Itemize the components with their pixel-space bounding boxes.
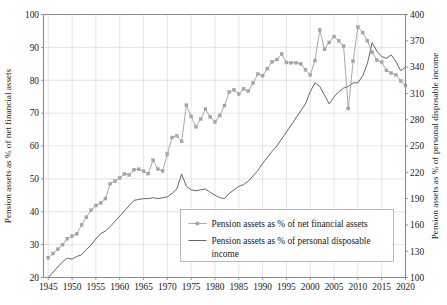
line-chart: 2030405060708090100100130160190220250280… <box>0 0 447 305</box>
y-axis-tick-label: 90 <box>30 43 40 53</box>
data-point-marker <box>352 60 355 63</box>
y-axis-tick-label: 60 <box>30 141 40 151</box>
legend-label-personal-disposable-income-cont: income <box>212 249 239 259</box>
x-axis-tick-label: 1985 <box>229 282 248 292</box>
data-point-marker <box>399 79 402 82</box>
data-point-marker <box>390 72 393 75</box>
data-point-marker <box>137 168 140 171</box>
data-point-marker <box>142 170 145 173</box>
data-point-marker <box>166 153 169 156</box>
data-point-marker <box>123 172 126 175</box>
data-point-marker <box>318 28 321 31</box>
data-point-marker <box>394 73 397 76</box>
y-axis-tick-label: 80 <box>30 76 40 86</box>
y-axis-tick-label: 40 <box>30 207 40 217</box>
data-point-marker <box>52 252 55 255</box>
data-point-marker <box>314 59 317 62</box>
data-point-marker <box>275 58 278 61</box>
data-point-marker <box>375 59 378 62</box>
y2-axis-tick-label: 190 <box>410 194 424 204</box>
x-axis-tick-label: 1950 <box>63 282 82 292</box>
data-point-marker <box>380 61 383 64</box>
data-point-marker <box>213 121 216 124</box>
x-axis-tick-label: 2010 <box>348 282 367 292</box>
data-point-marker <box>256 73 259 76</box>
data-point-marker <box>356 25 359 28</box>
y2-axis-title: Pension assets as % of personal disposab… <box>430 53 440 240</box>
y2-axis-tick-label: 160 <box>410 220 424 230</box>
x-axis-tick-label: 1980 <box>206 282 225 292</box>
data-point-marker <box>113 180 116 183</box>
data-point-marker <box>118 176 121 179</box>
chart-legend: Pension assets as % of net financial ass… <box>181 210 394 262</box>
data-point-marker <box>80 223 83 226</box>
y-axis-tick-label: 70 <box>30 108 40 118</box>
data-point-marker <box>85 216 88 219</box>
y-axis-tick-label: 30 <box>30 240 40 250</box>
data-point-marker <box>218 114 221 117</box>
data-point-marker <box>304 68 307 71</box>
data-point-marker <box>209 115 212 118</box>
data-point-marker <box>261 74 264 77</box>
data-point-marker <box>175 134 178 137</box>
data-point-marker <box>347 107 350 110</box>
x-axis-tick-label: 1955 <box>87 282 106 292</box>
data-point-marker <box>371 51 374 54</box>
data-point-marker <box>233 88 236 91</box>
legend-label-net-financial-assets: Pension assets as % of net financial ass… <box>212 219 369 229</box>
data-point-marker <box>204 108 207 111</box>
y2-axis-tick-label: 310 <box>410 89 424 99</box>
data-point-marker <box>109 182 112 185</box>
legend-label-personal-disposable-income: Pension assets as % of personal disposab… <box>212 236 371 246</box>
data-point-marker <box>61 243 64 246</box>
data-point-marker <box>309 73 312 76</box>
x-axis-tick-label: 2005 <box>325 282 344 292</box>
x-axis-tick-label: 1970 <box>158 282 177 292</box>
data-point-marker <box>228 91 231 94</box>
data-point-marker <box>194 125 197 128</box>
data-point-marker <box>385 69 388 72</box>
data-point-marker <box>366 39 369 42</box>
x-axis-tick-label: 1960 <box>110 282 129 292</box>
data-point-marker <box>266 67 269 70</box>
data-point-marker <box>90 209 93 212</box>
data-point-marker <box>361 31 364 34</box>
data-point-marker <box>290 61 293 64</box>
x-axis-tick-label: 2020 <box>396 282 415 292</box>
legend-marker-square <box>196 222 199 225</box>
x-axis-tick-label: 1945 <box>39 282 58 292</box>
y2-axis-tick-label: 340 <box>410 62 424 72</box>
chart-figure: 2030405060708090100100130160190220250280… <box>0 0 447 305</box>
data-point-marker <box>223 104 226 107</box>
data-point-marker <box>171 136 174 139</box>
data-point-marker <box>285 61 288 64</box>
data-point-marker <box>333 35 336 38</box>
y-axis-tick-label: 100 <box>25 10 39 20</box>
data-point-marker <box>104 197 107 200</box>
data-point-marker <box>190 115 193 118</box>
x-axis-tick-label: 1990 <box>253 282 272 292</box>
y2-axis-tick-label: 250 <box>410 141 424 151</box>
x-axis-tick-label: 1965 <box>134 282 153 292</box>
data-point-marker <box>75 232 78 235</box>
data-point-marker <box>99 201 102 204</box>
data-point-marker <box>299 62 302 65</box>
data-point-marker <box>185 104 188 107</box>
y-axis-title: Pension assets as % of net financial ass… <box>3 68 13 223</box>
x-axis-tick-label: 2015 <box>372 282 391 292</box>
data-point-marker <box>294 61 297 64</box>
y2-axis-tick-label: 280 <box>410 115 424 125</box>
data-point-marker <box>180 140 183 143</box>
x-axis-tick-label: 2000 <box>301 282 320 292</box>
data-point-marker <box>252 81 255 84</box>
x-axis-tick-label: 1995 <box>277 282 296 292</box>
data-point-marker <box>342 45 345 48</box>
data-point-marker <box>328 41 331 44</box>
data-point-marker <box>199 118 202 121</box>
data-point-marker <box>237 93 240 96</box>
data-point-marker <box>133 168 136 171</box>
y2-axis-tick-label: 220 <box>410 168 424 178</box>
x-axis-tick-label: 1975 <box>182 282 201 292</box>
y-axis-tick-label: 50 <box>30 174 40 184</box>
y2-axis-tick-label: 400 <box>410 10 424 20</box>
